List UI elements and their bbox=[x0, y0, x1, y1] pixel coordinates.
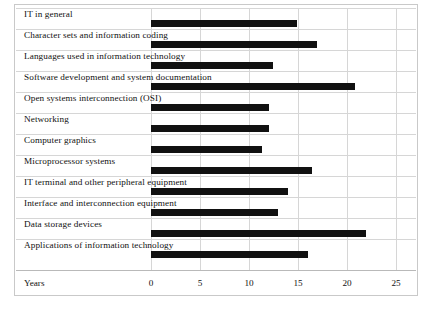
category-label: IT terminal and other peripheral equipme… bbox=[24, 177, 187, 188]
category-label: Microprocessor systems bbox=[24, 156, 115, 167]
category-label: IT in general bbox=[24, 9, 73, 20]
bar-row: Software development and system document… bbox=[0, 71, 436, 92]
x-axis: Years 0510152025 bbox=[0, 270, 436, 296]
bar bbox=[151, 104, 269, 111]
bar-row: IT terminal and other peripheral equipme… bbox=[0, 176, 436, 197]
bar bbox=[151, 209, 278, 216]
category-label: Interface and interconnection equipment bbox=[24, 198, 177, 209]
tick-label-0: 0 bbox=[149, 278, 154, 289]
tick-label-15: 15 bbox=[293, 278, 302, 289]
bar-row: Microprocessor systems bbox=[0, 155, 436, 176]
category-label: Languages used in information technology bbox=[24, 51, 185, 62]
bar bbox=[151, 230, 366, 237]
bar bbox=[151, 251, 308, 258]
bar bbox=[151, 83, 355, 90]
horizontal-bar-chart: IT in generalCharacter sets and informat… bbox=[0, 0, 436, 309]
category-label: Open systems interconnection (OSI) bbox=[24, 93, 161, 104]
tick-label-25: 25 bbox=[391, 278, 400, 289]
category-label: Computer graphics bbox=[24, 135, 96, 146]
bar bbox=[151, 62, 273, 69]
bar bbox=[151, 41, 317, 48]
bar-row: Open systems interconnection (OSI) bbox=[0, 92, 436, 113]
category-label: Applications of information technology bbox=[24, 240, 174, 251]
bar bbox=[151, 20, 297, 27]
row-separator bbox=[16, 113, 416, 114]
category-label: Character sets and information coding bbox=[24, 30, 168, 41]
row-separator bbox=[16, 8, 416, 9]
category-label: Data storage devices bbox=[24, 219, 102, 230]
plot-area: IT in generalCharacter sets and informat… bbox=[0, 8, 436, 270]
bar-row: Networking bbox=[0, 113, 436, 134]
bar-row: Applications of information technology bbox=[0, 239, 436, 260]
bar-row: Data storage devices bbox=[0, 218, 436, 239]
tick-label-20: 20 bbox=[342, 278, 351, 289]
category-label: Networking bbox=[24, 114, 69, 125]
bar bbox=[151, 167, 312, 174]
bar bbox=[151, 125, 269, 132]
tick-label-10: 10 bbox=[244, 278, 253, 289]
category-label: Software development and system document… bbox=[24, 72, 212, 83]
bar-row: Languages used in information technology bbox=[0, 50, 436, 71]
x-axis-rule bbox=[16, 270, 416, 271]
bar bbox=[151, 146, 262, 153]
bar-row: Character sets and information coding bbox=[0, 29, 436, 50]
bar-row: Computer graphics bbox=[0, 134, 436, 155]
x-axis-title: Years bbox=[24, 278, 45, 289]
chart-frame-top-rule bbox=[14, 4, 418, 5]
bar-row: Interface and interconnection equipment bbox=[0, 197, 436, 218]
bar bbox=[151, 188, 288, 195]
tick-label-5: 5 bbox=[198, 278, 203, 289]
bar-row: IT in general bbox=[0, 8, 436, 29]
